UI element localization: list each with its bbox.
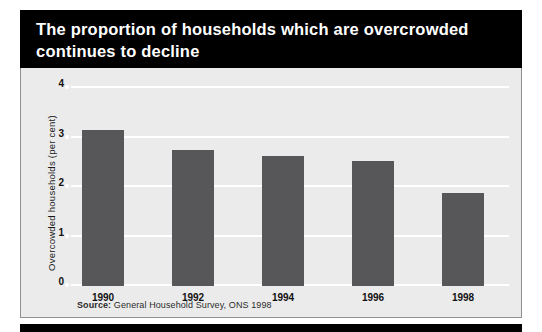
y-tick-label: 3 [58,128,64,139]
bar-group: 1998 [442,193,484,286]
bar [262,156,304,286]
y-tick-marker [65,283,69,287]
bar-group: 1990 [82,130,124,286]
chart-title-banner: The proportion of households which are o… [20,10,522,68]
bar [352,161,394,286]
y-tick-label: 1 [58,227,64,238]
bar-series: 19901992199419961998 [71,88,509,286]
x-tick-label: 1996 [362,292,384,303]
bar-group: 1996 [352,161,394,286]
source-label: Source: [77,300,111,310]
plot-area: 01234 19901992199419961998 [71,88,509,286]
bottom-black-strip [20,324,522,332]
source-note: Source: General Household Survey, ONS 19… [77,300,272,310]
y-tick-marker [65,234,69,238]
bar [82,130,124,286]
y-tick-marker [65,85,69,89]
y-axis-title: Overcowded households (per cent) [43,68,59,318]
y-tick-label: 2 [58,177,64,188]
page-title: The proportion of households which are o… [36,19,508,63]
y-tick-marker [65,135,69,139]
y-tick-marker [65,184,69,188]
x-tick-label: 1998 [452,292,474,303]
bar-group: 1994 [262,156,304,286]
bar-group: 1992 [172,150,214,286]
y-tick-label: 0 [58,276,64,287]
source-text: General Household Survey, ONS 1998 [111,300,271,310]
bar [172,150,214,286]
bar [442,193,484,286]
y-tick-label: 4 [58,78,64,89]
x-tick-label: 1994 [272,292,294,303]
chart-panel: Overcowded households (per cent) 01234 1… [20,68,522,318]
